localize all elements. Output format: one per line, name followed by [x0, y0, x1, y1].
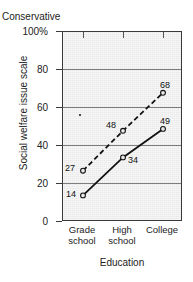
data-label-democratic-high: 34 — [128, 155, 138, 165]
republican-point-grade — [81, 168, 86, 173]
plot-area: 27 48 68 14 34 49 Democratic Republican — [62, 31, 182, 221]
democratic-point-high — [121, 155, 126, 160]
data-label-democratic-college: 49 — [160, 116, 170, 126]
data-label-republican-high: 48 — [106, 120, 116, 130]
y-axis-title: Social welfare issue scale — [19, 43, 29, 183]
democratic-point-college — [161, 127, 166, 132]
x-category-college: College — [132, 224, 192, 235]
republican-point-high — [121, 128, 126, 133]
x-category-high-line2: school — [92, 235, 152, 246]
y-tick-label-0: 0 — [0, 216, 56, 227]
democratic-point-grade — [81, 193, 86, 198]
republican-point-college — [161, 90, 166, 95]
democratic-line — [83, 129, 163, 196]
chart-figure: Conservative 100% 80 60 40 20 0 Social w… — [0, 0, 193, 282]
x-axis-title: Education — [62, 258, 182, 268]
data-label-democratic-grade: 14 — [66, 189, 76, 199]
y-tick-label-100: 100% — [0, 26, 56, 37]
data-label-republican-grade: 27 — [65, 163, 75, 173]
series-lines — [63, 32, 182, 221]
y-tick-mark-0 — [56, 221, 62, 222]
data-label-republican-college: 68 — [160, 80, 170, 90]
x-category-college-line1: College — [132, 224, 192, 235]
